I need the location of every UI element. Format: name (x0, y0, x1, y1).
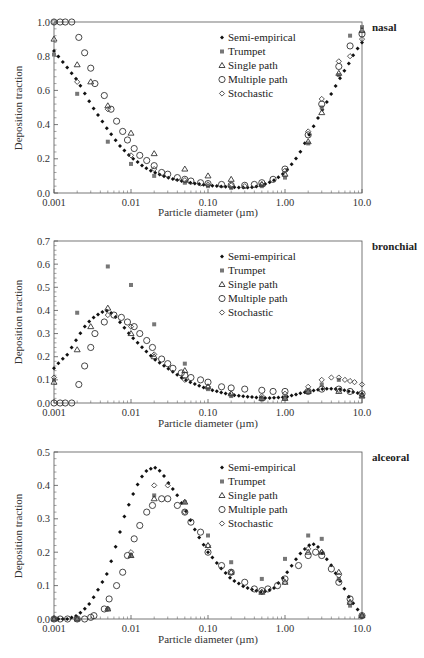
data-point (137, 152, 143, 158)
data-point (52, 366, 56, 370)
x-tick-label: 10.0 (353, 197, 371, 208)
data-point (290, 162, 294, 166)
legend-marker (219, 521, 224, 526)
data-point (88, 65, 94, 71)
data-point (294, 392, 298, 396)
data-point (290, 394, 294, 398)
data-point (312, 389, 316, 393)
legend-label: Stochastic (228, 517, 273, 529)
series-single-path (51, 496, 365, 621)
y-tick-label: 0.0 (37, 614, 50, 625)
data-point (260, 577, 264, 581)
legend-marker (219, 91, 224, 96)
data-point (75, 311, 79, 315)
data-point (78, 611, 82, 615)
data-point (74, 347, 80, 352)
legend-marker (220, 50, 224, 54)
data-point (347, 43, 353, 49)
legend-marker (219, 282, 225, 287)
data-point (250, 395, 254, 399)
data-point (206, 550, 210, 554)
series-multiple-path (51, 19, 365, 189)
data-point (242, 386, 248, 392)
panel-label-bronchial: bronchial (372, 240, 417, 252)
data-point (61, 60, 65, 64)
data-point (312, 124, 316, 128)
data-point (131, 492, 135, 496)
y-tick-label: 0.6 (37, 259, 50, 270)
y-tick-label: 0.1 (37, 580, 50, 591)
y-tick-label: 0.7 (37, 236, 50, 247)
data-point (78, 331, 82, 335)
data-point (136, 341, 140, 345)
data-point (124, 319, 130, 325)
data-point (96, 312, 100, 316)
data-point (149, 502, 155, 508)
data-point (100, 120, 104, 124)
legend-marker (219, 76, 225, 82)
nasal-panel: nasal Particle diameter (µm) Deposition … (12, 17, 396, 220)
panel-label-alceoral: alceoral (372, 451, 409, 463)
data-point (165, 361, 171, 367)
x-tick-label: 0.001 (42, 407, 66, 418)
data-point (113, 118, 119, 124)
data-point (122, 148, 126, 152)
data-point (75, 92, 79, 96)
legend-label: Single path (228, 59, 278, 71)
data-point (319, 377, 324, 382)
data-point (251, 181, 257, 187)
data-point (109, 132, 113, 136)
panel-label-nasal: nasal (372, 21, 396, 33)
data-point (52, 49, 56, 53)
data-point (175, 493, 179, 497)
data-point (241, 394, 245, 398)
data-point (313, 549, 319, 555)
data-point (140, 475, 144, 479)
data-point (76, 34, 82, 40)
y-tick-label: 0.5 (37, 282, 50, 293)
data-point (131, 336, 135, 340)
series-stochastic (51, 312, 364, 398)
data-point (122, 326, 126, 330)
x-tick-label: 0.001 (42, 623, 66, 634)
data-point (215, 389, 219, 393)
data-point (76, 381, 82, 387)
data-point (342, 587, 346, 591)
data-point (144, 509, 150, 515)
y-tick-label: 0.0 (37, 188, 50, 199)
series-trumpet (52, 25, 364, 190)
data-point (136, 482, 140, 486)
y-tick-label: 0.3 (37, 513, 50, 524)
data-point (124, 137, 130, 143)
plot-frame (54, 22, 362, 193)
legend-marker (219, 295, 225, 301)
data-point (295, 562, 301, 568)
data-point (165, 171, 171, 177)
data-point (325, 557, 329, 561)
legend-marker (219, 63, 225, 68)
x-tick-label: 10.0 (353, 623, 371, 634)
data-point (237, 185, 241, 189)
data-point (100, 310, 104, 314)
data-point (312, 542, 316, 546)
data-point (334, 84, 338, 88)
data-point (268, 180, 272, 184)
data-point (342, 377, 347, 382)
x-axis-title: Particle diameter (µm) (158, 417, 258, 430)
data-point (298, 552, 302, 556)
data-point (165, 496, 171, 502)
data-point (197, 384, 201, 388)
data-point (149, 344, 155, 350)
data-point (96, 113, 100, 117)
data-point (137, 330, 143, 336)
x-tick-label: 0.01 (122, 407, 140, 418)
data-point (106, 264, 110, 268)
data-point (290, 564, 294, 568)
y-axis-title: Deposition traction (12, 493, 24, 578)
data-point (232, 579, 236, 583)
series-trumpet (52, 493, 364, 621)
data-point (285, 570, 289, 574)
data-point (171, 487, 175, 491)
data-point (228, 576, 232, 580)
data-point (88, 324, 94, 329)
